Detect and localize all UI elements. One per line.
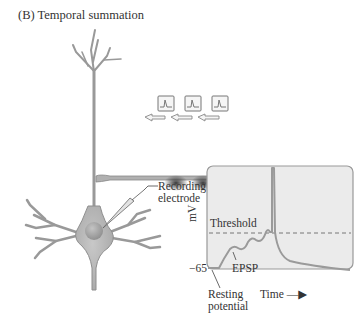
- resting-leader: [212, 270, 220, 288]
- epsp-label: EPSP: [232, 262, 258, 274]
- action-potential-icon: [158, 96, 174, 111]
- resting-value-label: −65: [189, 262, 207, 274]
- stimulus-icons: [158, 96, 228, 111]
- action-potential-icon: [212, 96, 228, 111]
- threshold-label: Threshold: [210, 217, 257, 229]
- recording-electrode-label: Recording electrode: [158, 180, 206, 204]
- nucleus: [85, 222, 103, 240]
- y-axis-label: mV: [186, 205, 198, 222]
- time-axis-label: Time —▶: [260, 288, 307, 300]
- recording-electrode: [103, 190, 144, 228]
- electrode-leader: [144, 186, 158, 190]
- soma: [76, 206, 114, 290]
- action-potential-icon: [185, 96, 201, 111]
- resting-potential-label: Resting potential: [208, 288, 248, 312]
- neuron-diagram: [0, 0, 357, 329]
- apical-dendrite: [73, 30, 121, 215]
- propagation-arrows: [145, 114, 219, 121]
